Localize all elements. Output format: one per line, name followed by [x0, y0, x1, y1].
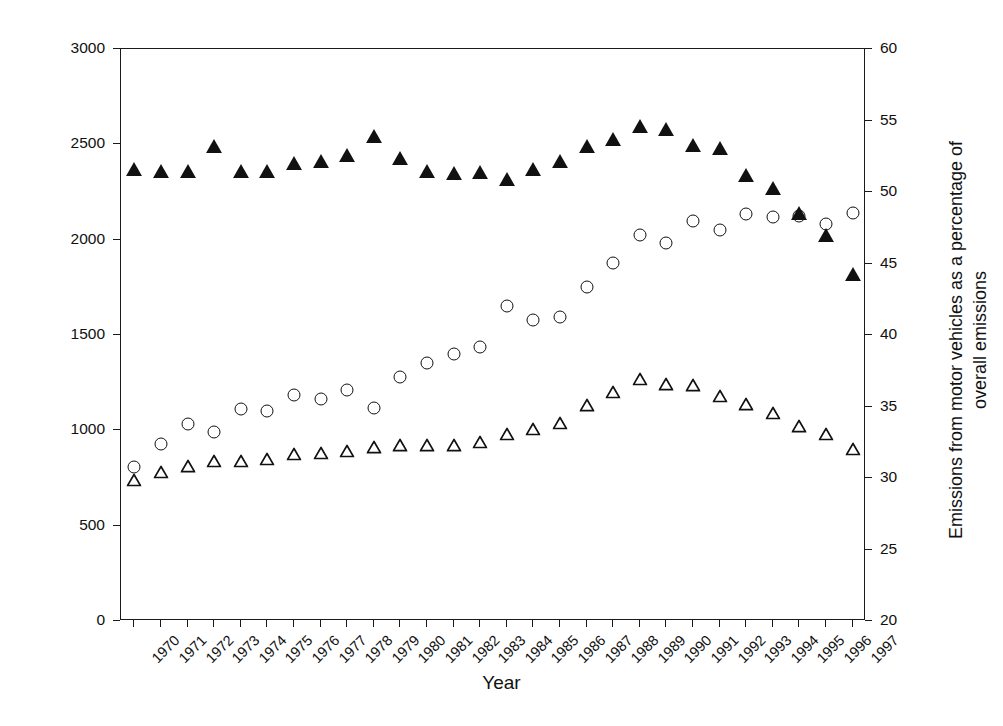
filled-triangle-marker — [180, 164, 196, 178]
open-circle-marker — [846, 206, 859, 219]
open-triangle-marker — [579, 398, 594, 411]
open-triangle-marker — [419, 438, 434, 451]
y-axis-left-tick — [113, 143, 120, 144]
open-circle-marker — [181, 417, 194, 430]
x-axis-tick-label: 1978 — [362, 632, 396, 666]
filled-triangle-marker — [579, 139, 595, 153]
open-circle-marker — [154, 437, 167, 450]
filled-triangle-marker — [818, 228, 834, 242]
x-axis-tick-label: 1979 — [388, 632, 422, 666]
filled-triangle-marker — [525, 162, 541, 176]
x-axis-tick-label: 1970 — [149, 632, 183, 666]
y-axis-right-tick — [865, 334, 872, 335]
x-axis-tick — [320, 620, 321, 627]
open-triangle-marker — [127, 472, 142, 485]
filled-triangle-marker — [392, 151, 408, 165]
open-circle-marker — [633, 228, 646, 241]
x-axis-tick-label: 1990 — [681, 632, 715, 666]
x-axis-tick — [240, 620, 241, 627]
y-axis-right-tick-label: 60 — [880, 39, 940, 57]
x-axis-tick — [559, 620, 560, 627]
y-axis-right-tick-label: 20 — [880, 611, 940, 629]
x-axis-tick-label: 1984 — [521, 632, 555, 666]
x-axis-tick — [213, 620, 214, 627]
y-axis-left-tick — [113, 239, 120, 240]
x-axis-tick-label: 1988 — [628, 632, 662, 666]
y-axis-right-tick-label: 40 — [880, 325, 940, 343]
filled-triangle-marker — [685, 138, 701, 152]
x-axis-tick-label: 1986 — [574, 632, 608, 666]
x-axis-tick-label: 1971 — [175, 632, 209, 666]
open-circle-marker — [740, 207, 753, 220]
x-axis-tick-label: 1993 — [761, 632, 795, 666]
filled-triangle-marker — [286, 156, 302, 170]
y-axis-right-tick — [865, 406, 872, 407]
y-axis-left-tick-label: 500 — [45, 516, 105, 534]
y-axis-right-tick-label: 30 — [880, 468, 940, 486]
filled-triangle-marker — [153, 164, 169, 178]
x-axis-tick-label: 1987 — [601, 632, 635, 666]
y-axis-right-title: Emissions from motor vehicles as a perce… — [944, 130, 992, 550]
filled-triangle-marker — [366, 129, 382, 143]
x-axis-tick — [293, 620, 294, 627]
open-circle-marker — [607, 256, 620, 269]
x-axis-tick-label: 1995 — [814, 632, 848, 666]
open-circle-marker — [766, 210, 779, 223]
x-axis-tick — [825, 620, 826, 627]
x-axis-tick-label: 1991 — [707, 632, 741, 666]
x-axis-tick — [665, 620, 666, 627]
y-axis-right-tick — [865, 263, 872, 264]
open-triangle-marker — [632, 371, 647, 384]
x-axis-tick — [506, 620, 507, 627]
open-triangle-marker — [446, 438, 461, 451]
open-triangle-marker — [845, 442, 860, 455]
x-axis-tick — [346, 620, 347, 627]
filled-triangle-marker — [419, 164, 435, 178]
chart-figure: Annual emission in ktonnes Emissions fro… — [0, 0, 1003, 726]
y-axis-left-tick-label: 1500 — [45, 325, 105, 343]
y-axis-right-tick-label: 25 — [880, 540, 940, 558]
y-axis-right-tick — [865, 620, 872, 621]
open-circle-marker — [394, 370, 407, 383]
x-axis-tick-label: 1977 — [335, 632, 369, 666]
open-triangle-marker — [393, 438, 408, 451]
filled-triangle-marker — [552, 154, 568, 168]
x-axis-tick — [160, 620, 161, 627]
open-triangle-marker — [659, 377, 674, 390]
open-circle-marker — [314, 392, 327, 405]
y-axis-right-tick — [865, 477, 872, 478]
x-axis-tick-label: 1983 — [495, 632, 529, 666]
x-axis-tick-label: 1994 — [787, 632, 821, 666]
x-axis-tick — [187, 620, 188, 627]
open-circle-marker — [687, 214, 700, 227]
x-axis-tick — [532, 620, 533, 627]
x-axis-tick — [373, 620, 374, 627]
x-axis-tick — [639, 620, 640, 627]
open-circle-marker — [527, 313, 540, 326]
open-triangle-marker — [286, 447, 301, 460]
open-triangle-marker — [180, 459, 195, 472]
open-triangle-marker — [366, 440, 381, 453]
open-triangle-marker — [765, 406, 780, 419]
y-axis-right-tick — [865, 549, 872, 550]
filled-triangle-marker — [845, 267, 861, 281]
x-axis-tick — [852, 620, 853, 627]
open-circle-marker — [500, 300, 513, 313]
y-axis-right-tick — [865, 120, 872, 121]
filled-triangle-marker — [499, 172, 515, 186]
open-circle-marker — [554, 310, 567, 323]
open-circle-marker — [287, 389, 300, 402]
open-circle-marker — [367, 402, 380, 415]
series-layer — [121, 49, 866, 621]
open-triangle-marker — [313, 446, 328, 459]
y-axis-left-tick-label: 3000 — [45, 39, 105, 57]
y-axis-left-tick-label: 0 — [45, 611, 105, 629]
x-axis-tick — [719, 620, 720, 627]
open-triangle-marker — [340, 444, 355, 457]
y-axis-right-tick — [865, 48, 872, 49]
open-circle-marker — [660, 236, 673, 249]
x-axis-tick — [133, 620, 134, 627]
open-circle-marker — [713, 224, 726, 237]
filled-triangle-marker — [206, 139, 222, 153]
open-triangle-marker — [553, 415, 568, 428]
